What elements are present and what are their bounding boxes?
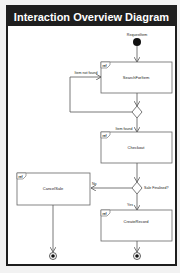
final-node [134, 253, 141, 260]
guard-item-found: Item found [116, 127, 133, 131]
initial-node-label: RequestItem [127, 33, 147, 37]
interaction-search-for-item[interactable]: ref SearchForItem [101, 62, 172, 93]
guard-item-not-found: Item not found [75, 71, 98, 75]
decision-node-item-found [132, 106, 142, 118]
interaction-label: CancelSale [43, 186, 64, 191]
guard-yes: Yes [127, 203, 133, 207]
interaction-label: Checkout [128, 145, 146, 150]
interaction-label: CreateRecord [124, 219, 149, 224]
interaction-cancel-sale[interactable]: ref CancelSale [17, 173, 90, 205]
interaction-label: SearchForItem [123, 75, 150, 80]
guard-no: No [92, 182, 97, 186]
decision-question: Sale Finalised? [144, 186, 169, 190]
diagram-canvas: RequestItem ref SearchForItem Item not f… [0, 0, 180, 273]
initial-node: RequestItem [127, 33, 147, 46]
interaction-checkout[interactable]: ref Checkout [101, 132, 172, 163]
interaction-create-record[interactable]: ref CreateRecord [101, 210, 172, 241]
decision-node-sale-finalised: Sale Finalised? [132, 182, 169, 194]
final-node [50, 253, 57, 260]
